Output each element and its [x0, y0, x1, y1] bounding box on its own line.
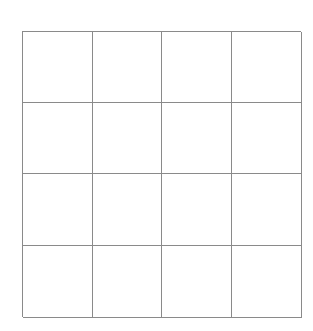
grid-cell-r1-c4[interactable]	[232, 32, 302, 103]
grid-cell-r4-c2[interactable]	[93, 246, 162, 318]
grid-cell-r3-c4[interactable]	[232, 174, 302, 246]
grid-cell-r2-c1[interactable]	[23, 103, 93, 174]
grid-cell-r1-c1[interactable]	[23, 32, 93, 103]
grid-cell-r2-c3[interactable]	[162, 103, 232, 174]
grid-cell-r3-c3[interactable]	[162, 174, 232, 246]
grid-cell-r2-c4[interactable]	[232, 103, 302, 174]
grid-cell-r3-c2[interactable]	[93, 174, 162, 246]
grid-cell-r1-c3[interactable]	[162, 32, 232, 103]
grid-cell-r4-c3[interactable]	[162, 246, 232, 318]
grid-cell-r1-c2[interactable]	[93, 32, 162, 103]
grid-cell-r4-c1[interactable]	[23, 246, 93, 318]
grid-cell-r3-c1[interactable]	[23, 174, 93, 246]
grid-cell-r4-c4[interactable]	[232, 246, 302, 318]
grid-cell-r2-c2[interactable]	[93, 103, 162, 174]
grid-board	[22, 31, 301, 317]
